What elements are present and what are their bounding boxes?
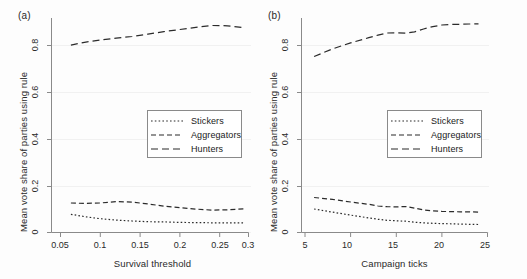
panel-a-legend-item-stickers: Stickers bbox=[148, 114, 241, 128]
chart-panel-a: (a) Mean vote share of parties using rul… bbox=[0, 0, 263, 279]
legend-line-dashed-icon bbox=[148, 129, 186, 141]
panel-b-legend: Stickers Aggregators Hunters bbox=[387, 110, 482, 158]
panel-a-series-stickers bbox=[71, 214, 244, 223]
legend-line-dotted-icon bbox=[388, 115, 426, 127]
panel-b-legend-label-aggregators: Aggregators bbox=[426, 130, 481, 140]
panel-b-legend-item-stickers: Stickers bbox=[388, 114, 481, 128]
panel-a-legend-item-aggregators: Aggregators bbox=[148, 128, 241, 142]
panel-a-legend: Stickers Aggregators Hunters bbox=[147, 110, 242, 158]
chart-panel-b: (b) Mean vote share of parties using rul… bbox=[264, 0, 527, 279]
panel-b-legend-item-hunters: Hunters bbox=[388, 142, 481, 156]
legend-line-long-dashed-icon bbox=[148, 143, 186, 155]
figure-container: (a) Mean vote share of parties using rul… bbox=[0, 0, 527, 279]
panel-b-series-hunters bbox=[314, 24, 478, 57]
panel-b-legend-label-hunters: Hunters bbox=[426, 144, 463, 154]
panel-a-legend-label-hunters: Hunters bbox=[186, 144, 223, 154]
panel-a-legend-label-stickers: Stickers bbox=[186, 116, 224, 126]
panel-a-series-hunters bbox=[71, 26, 244, 46]
legend-line-dashed-icon bbox=[388, 129, 426, 141]
panel-a-series-aggregators bbox=[71, 202, 244, 211]
panel-a-legend-item-hunters: Hunters bbox=[148, 142, 241, 156]
legend-line-long-dashed-icon bbox=[388, 143, 426, 155]
legend-line-dotted-icon bbox=[148, 115, 186, 127]
panel-b-series-aggregators bbox=[314, 198, 478, 213]
panel-b-legend-item-aggregators: Aggregators bbox=[388, 128, 481, 142]
panel-b-legend-label-stickers: Stickers bbox=[426, 116, 464, 126]
panel-a-legend-label-aggregators: Aggregators bbox=[186, 130, 241, 140]
